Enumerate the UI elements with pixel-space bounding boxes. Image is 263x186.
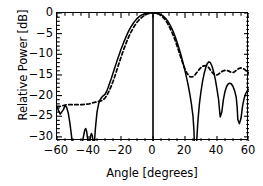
x-tick-label: 60 [228,143,263,157]
y-tick-label: −20 [5,88,53,102]
x-axis-title: Angle [degrees] [56,166,248,180]
plot-area [56,12,248,140]
y-tick-label: −5 [5,26,53,40]
y-tick-label: −25 [5,108,53,122]
y-tick-label: −10 [5,46,53,60]
y-tick-label: −30 [5,129,53,143]
y-tick-label: −15 [5,67,53,81]
antenna-pattern-figure: Relative Power [dB] Angle [degrees] 0−5−… [0,0,263,186]
y-tick-label: 0 [5,5,53,19]
pattern-curves [57,13,249,141]
